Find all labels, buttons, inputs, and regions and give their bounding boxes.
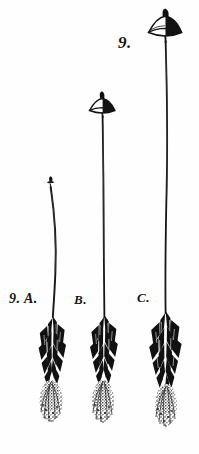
figure-label-b: B.	[74, 292, 87, 308]
figure-b	[90, 91, 118, 423]
plate-illustration	[0, 0, 199, 454]
leaf-rosette-icon-c	[149, 311, 181, 393]
leaf-rosette-icon-a	[39, 316, 66, 386]
figure-label-c: C.	[137, 290, 150, 306]
root-mass-icon-c	[155, 384, 177, 427]
stalk-icon-a	[51, 187, 56, 317]
mushroom-cap-icon-c	[149, 8, 182, 43]
figure-label-a: 9. A.	[9, 291, 38, 307]
leaf-rosette-icon-b	[90, 315, 118, 385]
mushroom-cap-icon-b	[90, 91, 115, 118]
stalk-icon-b	[103, 116, 105, 317]
botanical-plate: 9. 9. A. B. C.	[0, 0, 199, 454]
stalk-icon-c	[165, 41, 167, 313]
plate-number-label: 9.	[118, 33, 132, 53]
figure-a	[39, 176, 66, 422]
figure-c	[149, 8, 182, 426]
root-mass-icon-a	[40, 380, 63, 422]
root-mass-icon-b	[92, 380, 114, 423]
